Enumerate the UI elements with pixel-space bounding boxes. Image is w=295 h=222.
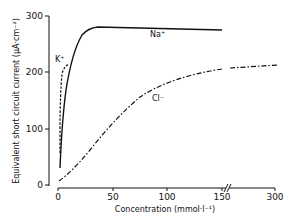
x-tick-label: 50 bbox=[107, 192, 119, 202]
series-na bbox=[60, 27, 222, 168]
x-tick-label: 300 bbox=[266, 192, 283, 202]
y-tick-label: 200 bbox=[26, 67, 43, 77]
series-cl bbox=[59, 69, 222, 181]
series-cl-continued bbox=[230, 65, 278, 68]
x-tick-label: 150 bbox=[213, 192, 230, 202]
y-tick-label: 0 bbox=[37, 180, 43, 190]
y-tick-label: 100 bbox=[26, 124, 43, 134]
chart: 300 200 100 0 0 50 100 150 300 Concentra… bbox=[0, 0, 295, 222]
x-tick-label: 0 bbox=[55, 192, 61, 202]
label-k: K⁺ bbox=[55, 55, 64, 64]
label-na: Na⁺ bbox=[150, 30, 165, 39]
y-tick-label: 300 bbox=[26, 11, 43, 21]
x-axis-label: Concentration (mmol·l⁻¹) bbox=[115, 205, 215, 214]
label-cl: Cl⁻ bbox=[152, 94, 164, 103]
x-tick-label: 100 bbox=[158, 192, 175, 202]
y-axis-label: Equivalent short circuit current (μA·cm⁻… bbox=[12, 18, 21, 184]
